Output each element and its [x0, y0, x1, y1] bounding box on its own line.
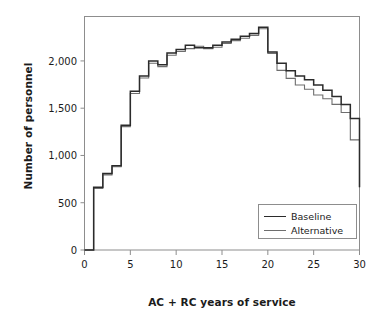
legend-item-baseline: Baseline [264, 209, 356, 223]
x-tick-label: 20 [248, 259, 288, 270]
y-tick-label: 500 [31, 197, 77, 208]
x-tick-label: 0 [65, 259, 105, 270]
x-tick-label: 25 [294, 259, 334, 270]
legend-label-baseline: Baseline [291, 211, 331, 222]
x-tick-label: 5 [110, 259, 150, 270]
x-tick-label: 15 [202, 259, 242, 270]
legend-line-swatch-baseline [264, 216, 286, 217]
chart-figure: Number of personnel AC + RC years of ser… [0, 0, 382, 323]
x-tick-label: 10 [156, 259, 196, 270]
legend-item-alternative: Alternative [264, 223, 356, 237]
y-tick-label: 1,500 [31, 103, 77, 114]
plot-area [0, 0, 382, 323]
y-tick-label: 1,000 [31, 150, 77, 161]
y-tick-label: 0 [31, 245, 77, 256]
x-tick-label: 30 [340, 259, 380, 270]
y-tick-marks [81, 61, 85, 250]
chart-legend: Baseline Alternative [258, 204, 357, 239]
legend-label-alternative: Alternative [291, 225, 343, 236]
legend-line-swatch-alternative [264, 230, 286, 231]
y-tick-label: 2,000 [31, 55, 77, 66]
x-tick-marks [85, 250, 360, 255]
